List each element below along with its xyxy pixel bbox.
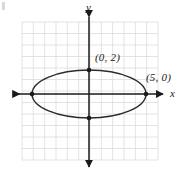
point-label-0-2: (0, 2) <box>95 52 120 63</box>
point-marker-bottom <box>87 116 92 121</box>
grid-lines <box>22 22 158 160</box>
point-marker-right <box>144 92 149 97</box>
y-axis-label: y <box>86 2 91 13</box>
ellipse-graph-figure: (0, 2) (5, 0) y x <box>0 0 180 176</box>
x-axis-label: x <box>170 88 175 99</box>
point-marker-left <box>30 92 35 97</box>
point-label-5-0: (5, 0) <box>146 72 171 83</box>
coordinate-plane-svg <box>0 0 180 176</box>
point-marker-top <box>87 68 92 73</box>
